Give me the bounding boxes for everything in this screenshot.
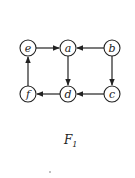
node-label: d [64, 88, 71, 101]
nodes: eabfdc [20, 40, 120, 102]
stray-dot [49, 171, 50, 172]
node-b: b [104, 40, 120, 56]
node-a: a [60, 40, 76, 56]
figure-caption: F1 [63, 133, 77, 149]
node-e: e [20, 40, 36, 56]
node-label: c [109, 88, 115, 101]
node-label: a [65, 42, 72, 55]
graph-diagram: eabfdc F1 [0, 0, 135, 178]
node-label: b [108, 42, 115, 55]
node-label: e [25, 42, 32, 55]
node-f: f [20, 86, 36, 102]
node-d: d [60, 86, 76, 102]
node-c: c [104, 86, 120, 102]
